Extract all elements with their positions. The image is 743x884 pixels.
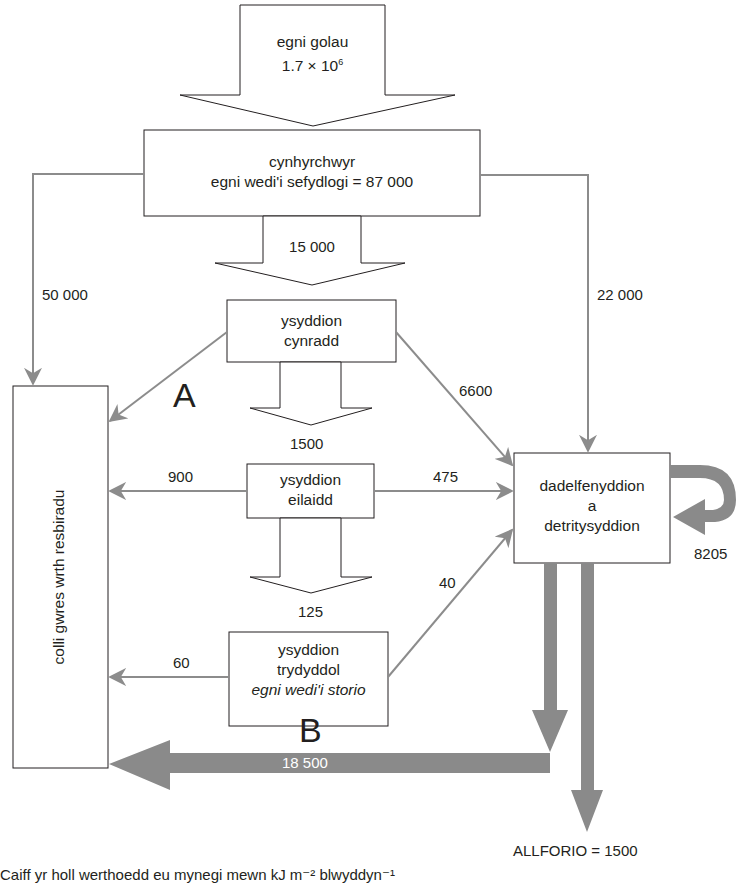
marker-b: B [299, 712, 322, 748]
flow-label-900: 900 [168, 468, 193, 486]
flow-label-40: 40 [439, 574, 456, 592]
decomposers-line1: dadelfenyddion [514, 476, 670, 496]
heat-loss-arrow [109, 740, 550, 790]
light-energy-label: egni golau 1.7 × 106 [240, 32, 385, 76]
decomposers-line2: a [514, 496, 670, 516]
light-energy-exponent: 6 [338, 57, 343, 67]
flow-label-50000: 50 000 [42, 286, 88, 304]
flow-label-18500: 18 500 [282, 754, 328, 772]
producers-to-decomposers-line [480, 175, 588, 451]
flow-label-6600: 6600 [459, 382, 492, 400]
primary-consumers-label: ysyddion cynradd [227, 311, 396, 351]
producers-title: cynhyrchwyr [144, 152, 480, 172]
marker-a: A [173, 377, 196, 413]
tertiary-line1: ysyddion [229, 640, 388, 660]
flow-label-125: 125 [298, 603, 323, 621]
export-label: ALLFORIO = 1500 [513, 842, 638, 860]
decomposers-label: dadelfenyddion a detritysyddion [514, 476, 670, 536]
primary-line2: cynradd [227, 331, 396, 351]
respiration-label: colli gwres wrth resbiradu [50, 427, 70, 727]
secondary-consumers-label: ysyddion eilaidd [247, 470, 374, 510]
tertiary-line2: trydyddol [229, 660, 388, 680]
secondary-line1: ysyddion [247, 470, 374, 490]
flow-label-15000: 15 000 [263, 238, 361, 256]
flow-label-475: 475 [433, 468, 458, 486]
tertiary-stored-energy: egni wedi'i storio [229, 680, 388, 700]
secondary-to-tertiary-arrow [250, 518, 372, 593]
tertiary-to-decomposers-line [388, 530, 512, 677]
secondary-line2: eilaidd [247, 490, 374, 510]
flow-label-1500: 1500 [290, 435, 323, 453]
producers-label: cynhyrchwyr egni wedi'i sefydlogi = 87 0… [144, 152, 480, 192]
flow-label-8205: 8205 [694, 545, 727, 563]
decomposers-to-respiration-arrow [532, 563, 568, 752]
producers-to-respiration-line [33, 174, 144, 384]
primary-line1: ysyddion [227, 311, 396, 331]
decomposers-line3: detritysyddion [514, 516, 670, 536]
primary-to-respiration-line [110, 332, 227, 421]
flow-label-60: 60 [173, 654, 190, 672]
primary-to-secondary-arrow [250, 362, 372, 425]
light-energy-title: egni golau [240, 32, 385, 52]
light-energy-mantissa: 1.7 × 10 [282, 57, 338, 74]
flow-label-22000: 22 000 [597, 286, 643, 304]
decomposers-recycle-loop [670, 465, 736, 535]
producers-fixed-energy: egni wedi'i sefydlogi = 87 000 [144, 172, 480, 192]
tertiary-consumers-label: ysyddion trydyddol egni wedi'i storio [229, 640, 388, 700]
export-arrow [571, 563, 603, 832]
units-footnote: Caiff yr holl werthoedd eu mynegi mewn k… [0, 866, 395, 884]
light-energy-value: 1.7 × 106 [240, 52, 385, 76]
primary-to-decomposers-line [396, 332, 512, 465]
